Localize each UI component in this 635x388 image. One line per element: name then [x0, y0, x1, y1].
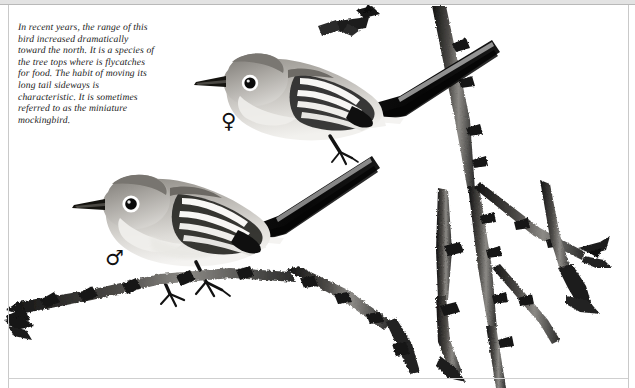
branch-top-stub	[318, 4, 380, 36]
caption-line: bird increased dramatically	[18, 34, 204, 46]
caption-line: toward the north. It is a species of	[18, 45, 204, 57]
caption-line: the tree tops where is flycatches	[18, 57, 204, 69]
caption-line: In recent years, the range of this	[18, 22, 204, 34]
plate-top-band	[0, 0, 635, 5]
branch-perch-left	[6, 266, 420, 374]
plate-caption: In recent years, the range of this bird …	[18, 22, 204, 126]
bird-female-feet	[330, 136, 358, 164]
bird-male-eye	[125, 198, 137, 210]
bird-male-tail	[252, 156, 380, 244]
plate-left-rule	[8, 5, 9, 388]
bird-female-eye	[244, 77, 255, 88]
female-symbol: ♀	[221, 111, 236, 132]
plate-right-rule	[628, 5, 629, 388]
bird-female-tail	[372, 40, 500, 124]
bird-male-feet	[161, 262, 230, 306]
caption-line: long tail sideways is	[18, 80, 204, 92]
male-symbol: ♂	[105, 248, 124, 269]
bird-plate-page: In recent years, the range of this bird …	[0, 0, 635, 388]
branch-lower-left	[436, 188, 466, 382]
caption-line: referred to as the miniature	[18, 103, 204, 115]
plate-bottom-rule	[8, 378, 628, 379]
caption-line: for food. The habit of moving its	[18, 68, 204, 80]
caption-line: mockingbird.	[18, 115, 204, 127]
caption-line: characteristic. It is sometimes	[18, 92, 204, 104]
